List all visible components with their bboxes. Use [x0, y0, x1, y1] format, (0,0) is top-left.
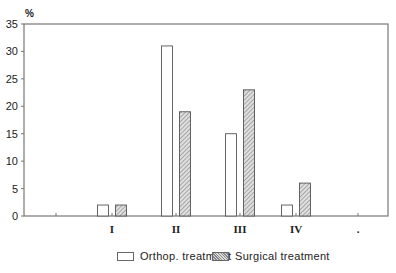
bar-surgical: [300, 183, 311, 216]
x-tick-label: III: [234, 223, 247, 235]
bar-chart: 05101520253035 IIIIIIIV. %: [0, 0, 396, 273]
y-tick-label: 25: [6, 73, 18, 85]
y-tick-label: 35: [6, 18, 18, 30]
bar-surgical: [244, 90, 255, 216]
y-tick-label: 30: [6, 45, 18, 57]
bar-surgical: [116, 205, 127, 216]
plot-frame: [24, 24, 388, 216]
y-tick-label: 10: [6, 155, 18, 167]
y-tick-label: 0: [12, 210, 18, 222]
x-tick-label: I: [110, 223, 114, 235]
legend-item-surgical: Surgical treatment: [212, 250, 330, 262]
legend-label: Surgical treatment: [235, 250, 330, 262]
bar-orthop: [226, 134, 237, 216]
x-tick-label: IV: [290, 223, 302, 235]
x-tick-label: .: [357, 223, 360, 235]
bar-surgical: [180, 112, 191, 216]
bar-orthop: [162, 46, 173, 216]
bar-orthop: [98, 205, 109, 216]
y-tick-label: 20: [6, 100, 18, 112]
bar-orthop: [282, 205, 293, 216]
y-tick-label: 15: [6, 128, 18, 140]
x-tick-label: II: [172, 223, 181, 235]
y-axis: 05101520253035: [6, 18, 24, 222]
y-axis-label: %: [25, 8, 34, 19]
legend: Orthop. treatment Surgical treatment: [0, 250, 396, 268]
y-tick-label: 5: [12, 183, 18, 195]
bars: [98, 46, 311, 216]
legend-swatch-plain-icon: [117, 252, 134, 261]
legend-swatch-hatched-icon: [212, 252, 229, 261]
